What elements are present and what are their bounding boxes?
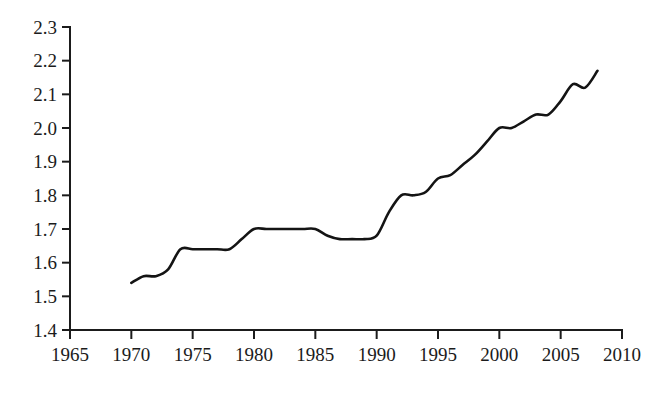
y-axis-tick-label: 2.1 [33, 84, 57, 105]
x-axis-tick-label: 1965 [51, 344, 89, 365]
x-axis-tick-label: 1985 [296, 344, 334, 365]
x-axis-tick-marks [70, 330, 622, 339]
y-axis-tick-label: 1.4 [33, 320, 57, 341]
y-axis-tick-label: 1.8 [33, 185, 57, 206]
y-axis-tick-label: 2.2 [33, 50, 57, 71]
y-axis-tick-label: 1.6 [33, 252, 57, 273]
x-axis-tick-label: 1970 [112, 344, 150, 365]
y-axis-tick-label: 1.7 [33, 219, 57, 240]
y-axis-tick-labels: 1.41.51.61.71.81.92.02.12.22.3 [33, 17, 57, 341]
x-axis-tick-label: 1975 [174, 344, 212, 365]
x-axis-tick-label: 1980 [235, 344, 273, 365]
y-axis-tick-label: 1.9 [33, 151, 57, 172]
y-axis-tick-label: 2.0 [33, 118, 57, 139]
y-axis-tick-marks [62, 27, 70, 330]
x-axis-tick-label: 1990 [358, 344, 396, 365]
chart-container: 1.41.51.61.71.81.92.02.12.22.3 196519701… [0, 0, 668, 398]
data-series-line [131, 71, 597, 283]
x-axis-tick-label: 2010 [603, 344, 641, 365]
line-chart: 1.41.51.61.71.81.92.02.12.22.3 196519701… [0, 0, 668, 398]
y-axis-tick-label: 2.3 [33, 17, 57, 38]
x-axis-tick-labels: 1965197019751980198519901995200020052010 [51, 344, 641, 365]
x-axis-tick-label: 2005 [542, 344, 580, 365]
y-axis-tick-label: 1.5 [33, 286, 57, 307]
x-axis-tick-label: 1995 [419, 344, 457, 365]
x-axis-tick-label: 2000 [480, 344, 518, 365]
